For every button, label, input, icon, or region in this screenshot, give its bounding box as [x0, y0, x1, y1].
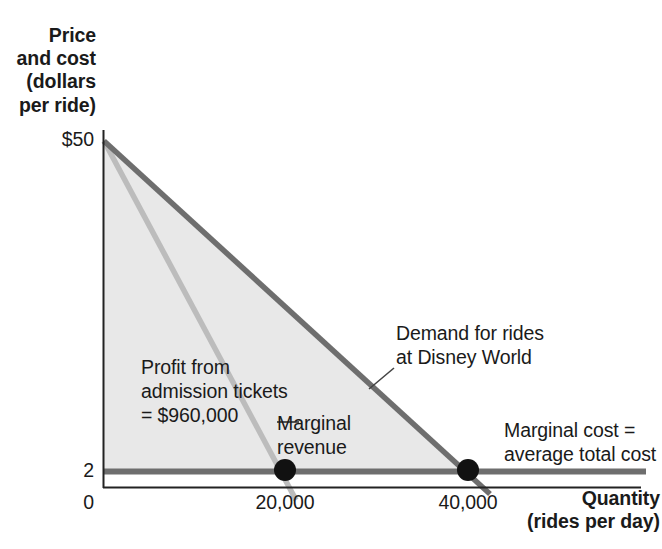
- demand-label-leader-line: [369, 368, 394, 389]
- demand-curve-label: Demand for rides at Disney World: [396, 322, 544, 370]
- marker-marginal-revenue-intersection: [274, 459, 296, 481]
- chart-canvas: [0, 0, 662, 549]
- x-tick-label-40000: 40,000: [412, 491, 524, 514]
- profit-region-label: Profit from admission tickets = $960,000: [141, 356, 288, 427]
- y-tick-label-2: 2: [52, 459, 94, 482]
- origin-tick-label: 0: [52, 491, 94, 514]
- x-tick-label-20000: 20,000: [229, 491, 341, 514]
- marker-demand-intersection: [457, 459, 479, 481]
- economics-chart-figure: Price and cost (dollars per ride) Quanti…: [0, 0, 662, 549]
- marginal-revenue-curve-label: Marginal revenue: [277, 412, 351, 460]
- y-axis-title: Price and cost (dollars per ride): [0, 24, 96, 117]
- marginal-cost-curve-label: Marginal cost = average total cost: [504, 419, 656, 467]
- y-tick-label-50: $50: [40, 128, 94, 151]
